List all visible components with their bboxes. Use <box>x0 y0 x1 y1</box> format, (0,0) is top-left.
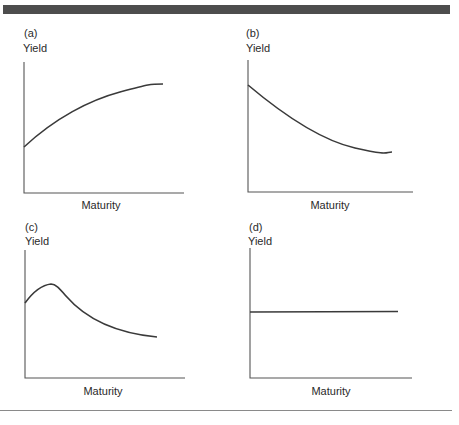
panel-c-plot <box>25 250 185 378</box>
panel-b-curve <box>248 85 392 153</box>
panel-d-axes <box>250 248 412 378</box>
yield-curve-plots <box>0 0 459 425</box>
panel-a-curve <box>24 84 163 147</box>
bottom-rule <box>0 410 452 411</box>
panel-a-plot <box>24 62 184 193</box>
panel-c-curve <box>25 284 157 337</box>
panel-c-axes <box>25 250 185 378</box>
panel-b-axes <box>248 60 413 192</box>
panel-d-plot <box>250 248 412 378</box>
panel-b-plot <box>248 60 413 192</box>
panel-d-curve <box>250 312 398 313</box>
